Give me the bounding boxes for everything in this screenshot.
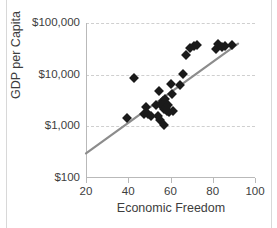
chart-figure: and the Pacific GDP per Capita Economic … [0,0,277,228]
y-tick-label: $100,000 [0,16,80,28]
x-tick [128,178,129,183]
x-tick-label: 100 [235,185,275,197]
page-rule-left [6,0,7,228]
x-tick [171,178,172,183]
x-tick [86,178,87,183]
x-tick-label: 40 [108,185,148,197]
y-tick-label: $1,000 [0,119,80,131]
y-tick-label: $100 [0,171,80,183]
x-axis-title: Economic Freedom [86,201,256,215]
x-tick-label: 20 [66,185,106,197]
plot-area [86,23,255,178]
x-tick-label: 80 [193,185,233,197]
x-tick [213,178,214,183]
x-tick-label: 60 [151,185,191,197]
x-tick [255,178,256,183]
y-tick-label: $10,000 [0,68,80,80]
chart-title: and the Pacific [0,0,277,3]
